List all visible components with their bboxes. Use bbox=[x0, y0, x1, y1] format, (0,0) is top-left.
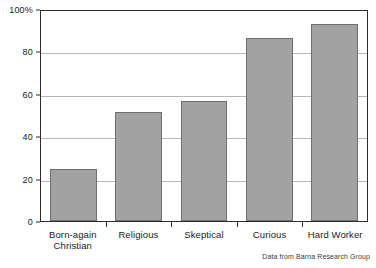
x-tick-mark bbox=[237, 222, 238, 227]
bar-slot bbox=[237, 11, 302, 221]
y-tick-label: 80 bbox=[23, 48, 33, 57]
bar-hard-worker bbox=[311, 24, 358, 221]
x-label-line: Born-again bbox=[40, 229, 106, 240]
x-label-religious: Religious bbox=[106, 229, 172, 251]
bar-chart: 100% 80 60 40 20 0 bbox=[0, 0, 376, 268]
x-label-line: Christian bbox=[40, 240, 106, 251]
x-tick-mark bbox=[302, 222, 303, 227]
bar-slot bbox=[302, 11, 367, 221]
y-tick-label: 40 bbox=[23, 133, 33, 142]
x-tick-mark bbox=[106, 222, 107, 227]
bar-skeptical bbox=[181, 101, 228, 221]
bar-born-again-christian bbox=[50, 169, 97, 222]
bar-series bbox=[41, 11, 367, 221]
bar-slot bbox=[171, 11, 236, 221]
x-tick-mark bbox=[171, 222, 172, 227]
bar-slot bbox=[41, 11, 106, 221]
x-label-line: Curious bbox=[237, 229, 303, 240]
x-label-line: Hard Worker bbox=[302, 229, 368, 240]
bar-curious bbox=[246, 38, 293, 221]
x-label-line: Skeptical bbox=[171, 229, 237, 240]
bar-religious bbox=[115, 112, 162, 221]
x-label-born-again-christian: Born-again Christian bbox=[40, 229, 106, 251]
x-axis-labels: Born-again Christian Religious Skeptical… bbox=[40, 229, 368, 251]
x-label-curious: Curious bbox=[237, 229, 303, 251]
x-label-hard-worker: Hard Worker bbox=[302, 229, 368, 251]
x-axis-ticks bbox=[40, 222, 368, 227]
x-label-skeptical: Skeptical bbox=[171, 229, 237, 251]
y-tick-label: 0 bbox=[28, 218, 33, 227]
plot-area bbox=[40, 10, 368, 222]
y-tick-label: 60 bbox=[23, 90, 33, 99]
source-note: Data from Barna Research Group bbox=[262, 253, 370, 261]
y-tick-label: 100% bbox=[9, 6, 33, 15]
y-tick-label: 20 bbox=[23, 175, 33, 184]
y-axis: 100% 80 60 40 20 0 bbox=[0, 0, 40, 232]
x-label-line: Religious bbox=[106, 229, 172, 240]
bar-slot bbox=[106, 11, 171, 221]
